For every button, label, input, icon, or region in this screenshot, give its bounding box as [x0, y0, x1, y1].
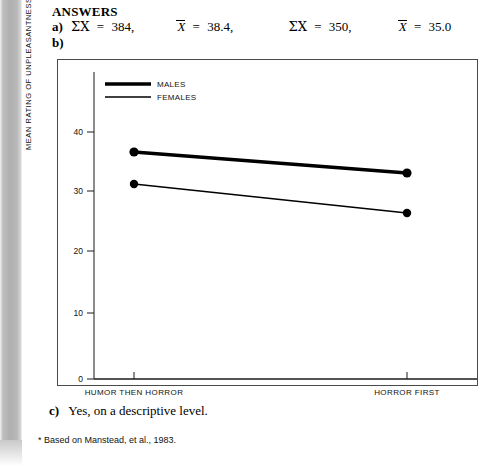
chart-figure: 0 10 20 30 40 MALES FEMALES	[57, 59, 478, 386]
males-point-humor-then-horror	[129, 147, 138, 156]
answers-heading: ANSWERS	[52, 4, 118, 20]
x-category-label-1: HORROR FIRST	[374, 388, 440, 397]
y-tick-label-30: 30	[74, 186, 84, 196]
x-category-labels: HUMOR THEN HORROR HORROR FIRST	[58, 385, 477, 405]
males-point-horror-first	[402, 168, 411, 177]
chart-legend: MALES FEMALES	[105, 80, 196, 102]
series-females	[130, 180, 411, 217]
part-a-line: a) ΣX = 384, X = 38.4, ΣX = 350, X = 35.…	[52, 19, 451, 37]
mean-value-1: 38.4,	[207, 19, 233, 34]
part-c-line: c) Yes, on a descriptive level.	[49, 403, 208, 419]
y-tick-label-0: 0	[78, 374, 83, 384]
females-point-horror-first	[403, 209, 411, 217]
x-axis-ticks	[134, 372, 407, 379]
mean-value-2: 35.0	[429, 19, 452, 34]
sum-symbol-1: ΣX	[71, 19, 89, 34]
y-tick-label-10: 10	[74, 308, 84, 318]
part-c-label: c)	[49, 403, 59, 418]
sum-value-1: 384,	[111, 19, 134, 34]
sum-symbol-2: ΣX	[288, 19, 306, 34]
x-category-label-0: HUMOR THEN HORROR	[85, 388, 184, 397]
mean-symbol-1: X	[177, 19, 185, 35]
scan-gutter-shadow	[0, 0, 22, 440]
line-chart-svg: 0 10 20 30 40 MALES FEMALES	[58, 60, 477, 385]
females-point-humor-then-horror	[130, 180, 138, 188]
equals-4: =	[414, 19, 421, 34]
equals-2: =	[193, 19, 200, 34]
y-tick-label-20: 20	[74, 246, 84, 256]
part-a-label: a)	[52, 19, 63, 34]
part-b-label: b)	[52, 35, 64, 51]
y-tick-label-40: 40	[74, 127, 84, 137]
source-footnote: * Based on Manstead, et al., 1983.	[38, 435, 176, 445]
legend-label-males: MALES	[157, 80, 186, 89]
males-line	[134, 152, 407, 173]
mean-symbol-2: X	[399, 19, 407, 35]
y-axis-ticks	[87, 132, 94, 379]
scan-gutter-fade	[0, 440, 22, 466]
series-males	[129, 147, 411, 177]
y-axis-title: MEAN RATING OF UNPLEASANTNESS	[24, 0, 33, 150]
sum-value-2: 350,	[329, 19, 352, 34]
females-line	[134, 184, 407, 213]
part-c-text: Yes, on a descriptive level.	[68, 403, 207, 418]
equals-3: =	[314, 19, 321, 34]
legend-label-females: FEMALES	[157, 93, 196, 102]
equals-1: =	[97, 19, 104, 34]
